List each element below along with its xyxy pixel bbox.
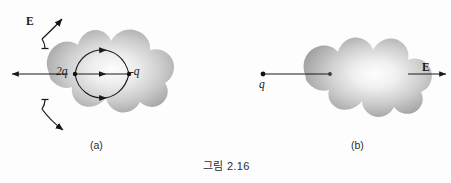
field-entry-point-b [328, 72, 332, 76]
E-annotation-curve-upper-a [42, 19, 62, 39]
charge-label-q: q [259, 79, 265, 91]
E-annotation-curve-lower-a [42, 109, 63, 130]
charge-label-2q: 2q [56, 66, 68, 78]
figure-canvas [0, 0, 451, 183]
field-label-E-panel-a: E [26, 16, 34, 28]
charge-dot-q [261, 72, 266, 77]
panel-a-group [12, 19, 174, 130]
charge-label-negative-q: -q [130, 66, 140, 78]
panel-b-group [261, 38, 446, 117]
charge-dot-2q [73, 72, 77, 76]
panel-label-a: (a) [90, 140, 103, 151]
figure-container: E 2q -q E q (a) (b) 그림 2.16 [0, 0, 451, 183]
field-label-E-panel-b: E [422, 62, 430, 74]
E-annotation-tail-lower-a [42, 100, 45, 109]
figure-caption: 그림 2.16 [203, 161, 250, 172]
panel-label-b: (b) [351, 140, 364, 151]
E-annotation-tail-upper-a [42, 39, 45, 48]
gaussian-surface-b [304, 38, 432, 117]
